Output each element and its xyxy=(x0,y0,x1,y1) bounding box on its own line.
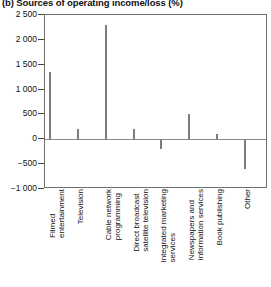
y-axis-tick xyxy=(38,39,44,40)
y-axis-tick xyxy=(38,89,44,90)
category-label: Other xyxy=(244,189,253,209)
y-axis-tick xyxy=(38,64,44,65)
category-label: Newspapers and information services xyxy=(188,189,205,260)
bar xyxy=(244,139,246,169)
bar xyxy=(105,25,107,139)
plot-inner xyxy=(45,15,266,187)
bar xyxy=(216,134,218,139)
category-label: Integrated marketing services xyxy=(160,189,177,262)
y-axis-tick xyxy=(38,113,44,114)
y-axis-tick-label: 0 xyxy=(1,134,37,143)
chart-container: (b) Sources of operating income/loss (%)… xyxy=(0,0,271,287)
bar xyxy=(188,114,190,139)
bar xyxy=(160,139,162,149)
category-label: Book publishing xyxy=(216,189,225,245)
category-label: Television xyxy=(77,189,86,224)
category-label: Cable network programming xyxy=(105,189,122,240)
y-axis-tick-label: 2 500 xyxy=(1,10,37,19)
category-label: Filmed entertainment xyxy=(49,189,66,238)
bar xyxy=(77,129,79,139)
y-axis-tick xyxy=(38,138,44,139)
y-axis-tick xyxy=(38,163,44,164)
zero-baseline xyxy=(45,139,266,140)
y-axis-tick-label: 2 000 xyxy=(1,35,37,44)
bar xyxy=(49,72,51,139)
y-axis-tick-label: 500 xyxy=(1,109,37,118)
bar xyxy=(133,129,135,139)
y-axis-tick-label: 1 500 xyxy=(1,60,37,69)
y-axis-tick-label: 1 000 xyxy=(1,85,37,94)
plot-area xyxy=(44,14,267,188)
x-axis-category-labels: Filmed entertainmentTelevisionCable netw… xyxy=(44,189,267,287)
y-axis-labels: 2 5002 0001 5001 0005000−500−1 000 xyxy=(0,0,37,287)
y-axis-tick-label: −500 xyxy=(1,159,37,168)
y-axis-tick xyxy=(38,14,44,15)
y-axis-tick-label: −1 000 xyxy=(1,184,37,193)
y-axis-tick xyxy=(38,188,44,189)
category-label: Direct broadcast satellite television xyxy=(133,189,150,252)
